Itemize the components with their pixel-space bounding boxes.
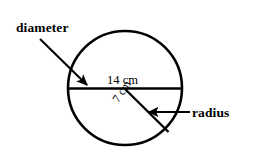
diagram-canvas: diameter radius 14 cm 7 cm (0, 0, 253, 157)
diameter-label: diameter (16, 21, 69, 35)
radius-line (125, 89, 169, 132)
diameter-leader-arrow (40, 39, 87, 85)
radius-label: radius (192, 106, 229, 120)
